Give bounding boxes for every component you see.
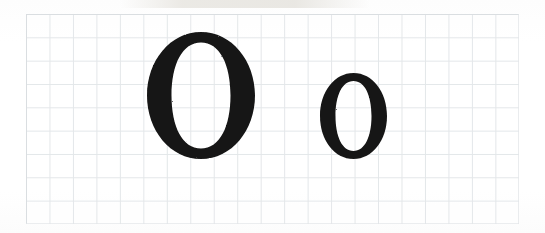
scanned-letter-sheet — [0, 0, 545, 233]
grid-border-right — [518, 14, 519, 224]
grid-border-left — [26, 14, 27, 224]
scan-smudge — [120, 0, 370, 8]
grid-border-top — [26, 14, 519, 15]
grid-border-bottom — [26, 223, 519, 224]
graph-paper-grid — [26, 14, 519, 224]
